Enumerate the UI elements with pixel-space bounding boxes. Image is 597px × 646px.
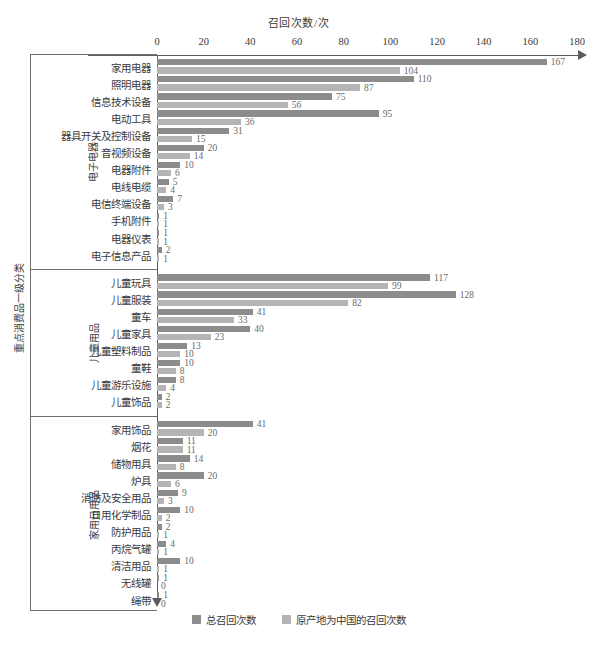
x-axis-tick-label: 140 (476, 36, 492, 47)
legend-swatch-icon (192, 615, 201, 624)
bar-china (157, 153, 190, 159)
category-label: 儿童玩具 (111, 274, 151, 289)
legend-label: 总召回次数 (206, 612, 256, 627)
category-label: 器具开关及控制设备 (61, 127, 151, 142)
bar-total (157, 421, 253, 427)
bar-value-total: 20 (204, 143, 218, 153)
chart-row: 电子信息产品21 (157, 246, 577, 263)
bar-value-china: 33 (234, 315, 248, 325)
bar-value-china: 23 (211, 332, 225, 342)
bar-value-total: 10 (180, 160, 194, 170)
x-axis-arrow-icon (578, 50, 587, 60)
x-axis-tick-label: 0 (154, 36, 159, 47)
bar-value-china: 1 (159, 254, 168, 264)
bar-china (157, 334, 211, 340)
bar-total (157, 93, 332, 99)
bar-value-china: 87 (360, 83, 374, 93)
bar-value-total: 14 (190, 454, 204, 464)
bar-value-total: 9 (178, 488, 187, 498)
legend-item[interactable]: 原产地为中国的召回次数 (282, 612, 406, 627)
bar-value-total: 7 (173, 194, 182, 204)
bar-total (157, 326, 250, 332)
legend-label: 原产地为中国的召回次数 (296, 612, 406, 627)
bar-total (157, 490, 178, 496)
category-label: 消防及安全用品 (81, 489, 151, 504)
bar-value-total: 20 (204, 471, 218, 481)
bar-value-china: 99 (388, 281, 402, 291)
bar-total (157, 110, 379, 116)
bar-china (157, 119, 241, 125)
group-separator (30, 269, 157, 270)
category-label: 照明电器 (111, 76, 151, 91)
chart-row: 丙烷气罐41 (157, 540, 577, 557)
group-separator (30, 416, 157, 417)
bar-china (157, 170, 171, 176)
legend-item[interactable]: 总召回次数 (192, 612, 256, 627)
bar-china (157, 84, 360, 90)
category-label: 烟花 (131, 438, 151, 453)
plot-area: 家用电器167104照明电器11087信息技术设备7556电动工具9536器具开… (157, 55, 577, 600)
bar-total (157, 162, 180, 168)
x-axis-title: 召回次数/次 (0, 14, 597, 30)
bar-value-total: 8 (176, 375, 185, 385)
bar-china (157, 300, 348, 306)
x-axis-tick-label: 100 (382, 36, 398, 47)
bar-total (157, 343, 187, 349)
chart-row: 器具开关及控制设备3115 (157, 126, 577, 143)
bar-china (157, 481, 171, 487)
chart-row: 无线罐10 (157, 574, 577, 591)
chart-row: 清洁用品101 (157, 557, 577, 574)
chart-row: 手机附件11 (157, 212, 577, 229)
bar-total (157, 541, 166, 547)
category-label: 手机附件 (111, 213, 151, 228)
bar-total (157, 309, 253, 315)
category-label: 童车 (131, 308, 151, 323)
x-axis-tick-label: 160 (522, 36, 538, 47)
chart-row: 儿童家具4023 (157, 325, 577, 342)
chart-row: 儿童玩具11799 (157, 273, 577, 290)
chart-row: 电线电缆54 (157, 178, 577, 195)
bar-total (157, 196, 173, 202)
bar-value-total: 10 (180, 505, 194, 515)
chart-row: 电动工具9536 (157, 109, 577, 126)
bar-value-total: 10 (180, 556, 194, 566)
bar-china (157, 368, 176, 374)
bar-value-china: 3 (164, 496, 173, 506)
bar-total (157, 438, 183, 444)
bar-china (157, 351, 180, 357)
category-label: 电线电缆 (111, 179, 151, 194)
bar-total (157, 59, 547, 65)
category-label: 丙烷气罐 (111, 541, 151, 556)
bar-value-total: 117 (430, 273, 448, 283)
chart-row: 炉具206 (157, 471, 577, 488)
chart-row: 家用饰品4120 (157, 420, 577, 437)
category-label: 清洁用品 (111, 558, 151, 573)
group-separator (30, 610, 157, 611)
category-label: 音视频设备 (101, 145, 151, 160)
chart-row: 防护用品21 (157, 523, 577, 540)
chart-legend: 总召回次数原产地为中国的召回次数 (0, 612, 597, 627)
category-label: 电子信息产品 (91, 247, 151, 262)
chart-row: 儿童游乐设施84 (157, 376, 577, 393)
x-axis-left-extension (88, 55, 158, 56)
x-axis-tick-labels: 020406080100120140160180 (157, 36, 577, 52)
bar-china (157, 446, 183, 452)
bar-china (157, 187, 166, 193)
x-axis-tick-label: 80 (338, 36, 349, 47)
bar-total (157, 377, 176, 383)
category-label: 储物用具 (111, 455, 151, 470)
bar-value-china: 2 (162, 400, 171, 410)
bar-value-china: 1 (159, 547, 168, 557)
chart-row: 童鞋108 (157, 359, 577, 376)
chart-row: 儿童服装12882 (157, 290, 577, 307)
bar-total (157, 472, 204, 478)
bar-china (157, 385, 166, 391)
bar-china (157, 429, 204, 435)
bar-total (157, 455, 190, 461)
chart-row: 儿童饰品22 (157, 393, 577, 410)
bar-value-total: 31 (229, 126, 243, 136)
category-label: 电动工具 (111, 110, 151, 125)
category-label: 炉具 (131, 472, 151, 487)
category-label: 童鞋 (131, 360, 151, 375)
chart-row: 家用电器167104 (157, 58, 577, 75)
